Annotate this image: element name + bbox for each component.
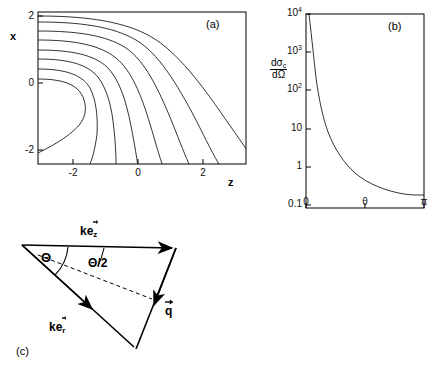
panel-b-ytick-0: 1 — [272, 160, 302, 171]
panel-b-frame — [306, 14, 424, 208]
vector-q — [154, 248, 176, 305]
trajectory-curve — [38, 40, 163, 166]
cross-section-curve — [309, 14, 424, 195]
panel-a-frame — [38, 12, 246, 164]
panel-a-xlabel: z — [228, 176, 234, 188]
trajectory-curve — [38, 16, 252, 157]
panel-b-tag: (b) — [388, 20, 401, 32]
vector-arrow-overline-z — [93, 219, 98, 224]
panel-b-plot — [258, 0, 434, 210]
panel-b-ylabel: dσc dΩ — [270, 58, 287, 81]
label-q: q — [165, 304, 172, 318]
panel-b-ytick-3: 103 — [272, 44, 302, 56]
panel-b-ytick-4: 104 — [272, 6, 302, 18]
panel-a-ylabel: x — [10, 30, 16, 42]
trajectory-curve — [38, 59, 116, 166]
panel-b-xtick-0: 0 — [292, 196, 320, 207]
panel-b-ylabel-denominator: dΩ — [270, 70, 287, 81]
panel-a-trajectories: -2 0 2 2 0 -2 x z (a) — [0, 0, 262, 202]
panel-a-xtick-0: -2 — [57, 167, 89, 178]
vector-arrow-overline-q — [165, 299, 173, 304]
panel-a-ytick-1: 0 — [16, 77, 34, 88]
panel-b-ytick-1: 10 — [272, 122, 302, 133]
vector-arrow-overline-r — [62, 315, 66, 320]
panel-a-xtick-1: 0 — [122, 167, 154, 178]
trajectory-curve — [38, 50, 138, 166]
angle-arc-theta — [55, 247, 68, 275]
panel-a-ytick-0: 2 — [16, 10, 34, 21]
panel-b-yticks — [306, 14, 311, 205]
trajectory-curve — [38, 22, 220, 166]
label-angle-theta-half: Θ/2 — [88, 256, 107, 270]
panel-c-diagram — [0, 212, 268, 369]
panel-c-tag: (c) — [16, 345, 29, 357]
cross-section-curve-group — [309, 14, 424, 195]
panel-a-yticks — [38, 16, 43, 150]
panel-b-xtick-2: π — [410, 196, 434, 207]
panel-b-xtick-1: θ — [351, 196, 379, 207]
panel-a-xticks — [73, 159, 203, 164]
vector-ker — [22, 245, 92, 309]
panel-a-xtick-2: 2 — [187, 167, 219, 178]
label-ker: ker — [49, 320, 65, 335]
panel-a-tag: (a) — [206, 18, 219, 30]
panel-c-vector-diagram: kez ker q Θ Θ/2 (c) — [0, 212, 268, 369]
panel-b-cross-section: 104 103 102 10 1 0.1 0 θ π dσc dΩ (b) — [258, 0, 434, 210]
figure-container: -2 0 2 2 0 -2 x z (a) — [0, 0, 434, 369]
panel-a-ytick-2: -2 — [8, 144, 34, 155]
label-angle-theta: Θ — [41, 250, 51, 265]
trajectory-curves — [38, 16, 252, 166]
trajectory-curve — [38, 79, 85, 153]
vector-kez — [22, 245, 172, 248]
label-kez: kez — [80, 224, 97, 239]
panel-b-ytick-2: 102 — [272, 82, 302, 94]
